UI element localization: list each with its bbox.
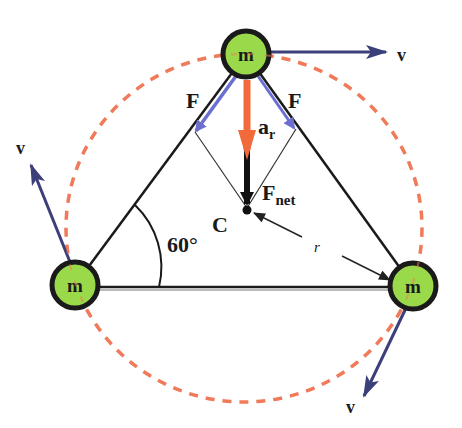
mass-right: m — [390, 263, 436, 309]
radius-arrow-to-center — [254, 213, 302, 237]
angle-arc — [135, 205, 161, 287]
diagram-canvas: m m m F F ar Fnet C 60° r v v v — [0, 0, 462, 428]
radius-arrow-to-mass — [342, 256, 390, 280]
label-velocity-left: v — [16, 138, 25, 158]
label-velocity-top: v — [397, 45, 406, 65]
label-velocity-right: v — [346, 397, 355, 417]
label-center: C — [212, 212, 228, 237]
svg-text:m: m — [405, 276, 421, 297]
label-force-right: F — [288, 88, 301, 113]
label-radius: r — [314, 239, 320, 255]
force-arrow-left — [196, 76, 236, 131]
acceleration-arrow-head — [238, 130, 256, 160]
label-force-left: F — [186, 88, 199, 113]
label-net-force: Fnet — [262, 180, 295, 208]
label-acceleration: ar — [258, 114, 275, 142]
mass-top: m — [223, 31, 269, 77]
center-point — [243, 206, 252, 215]
velocity-arrow-left — [31, 165, 70, 262]
label-angle: 60° — [167, 232, 198, 257]
